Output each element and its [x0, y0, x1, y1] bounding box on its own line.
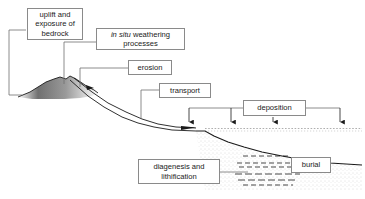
- sedimentary-cycle-diagram: uplift and exposure of bedrock in situ w…: [0, 0, 365, 199]
- label-erosion: erosion: [128, 60, 172, 75]
- label-transport: transport: [159, 83, 211, 98]
- label-weathering-text: in situ weathering processes: [111, 30, 170, 49]
- sediment-wedge: [196, 131, 362, 190]
- label-deposition: deposition: [243, 100, 306, 116]
- label-weathering-italic: in situ: [111, 30, 131, 39]
- leader-uplift: [9, 30, 26, 95]
- label-diagenesis: diagenesis and lithification: [138, 159, 220, 184]
- label-burial: burial: [291, 157, 331, 173]
- label-uplift: uplift and exposure of bedrock: [27, 8, 83, 40]
- leader-erosion: [80, 68, 128, 87]
- leader-transport: [141, 90, 159, 118]
- label-weathering-rest: weathering processes: [123, 30, 170, 48]
- water-surface: [205, 129, 362, 132]
- label-weathering: in situ weathering processes: [96, 28, 185, 50]
